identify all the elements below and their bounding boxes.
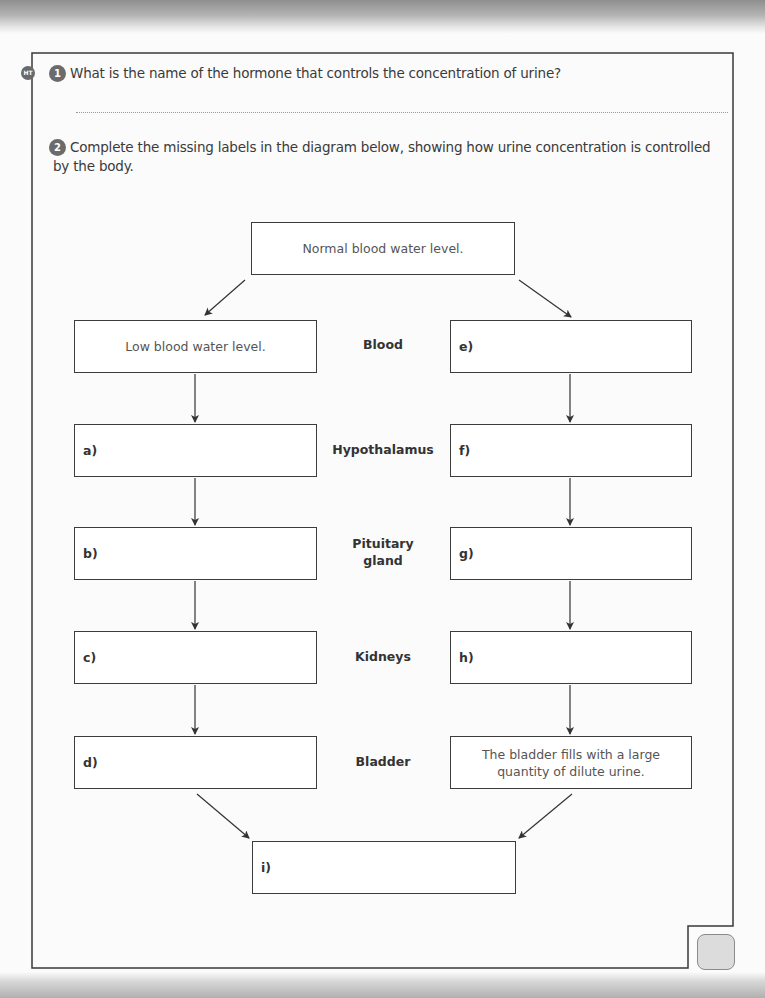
answer-label-g: g) [451, 546, 474, 561]
question-1-number: 1 [49, 65, 66, 82]
page-footer-band [0, 972, 765, 998]
answer-label-i: i) [253, 860, 271, 875]
answer-box-b[interactable]: b) [74, 527, 317, 580]
answer-box-i[interactable]: i) [252, 841, 516, 894]
score-box[interactable] [697, 934, 735, 970]
answer-box-f[interactable]: f) [450, 424, 692, 477]
answer-label-e: e) [451, 339, 473, 354]
answer-box-h[interactable]: h) [450, 631, 692, 684]
organ-label-gland: gland [323, 552, 443, 569]
question-1-text: What is the name of the hormone that con… [70, 64, 561, 82]
organ-label-blood: Blood [323, 336, 443, 353]
question-2-number: 2 [49, 139, 66, 156]
answer-label-f: f) [451, 443, 470, 458]
low-blood-water-box: Low blood water level. [74, 320, 317, 373]
normal-blood-water-box: Normal blood water level. [251, 222, 515, 275]
higher-tier-badge: HT [21, 66, 35, 80]
question-2-text-line1: Complete the missing labels in the diagr… [70, 138, 710, 156]
question-1-answer-line[interactable] [76, 112, 728, 113]
organ-label-pituitary: Pituitary [323, 535, 443, 552]
normal-blood-water-text: Normal blood water level. [252, 240, 514, 257]
dilute-urine-box: The bladder fills with a large quantity … [450, 736, 692, 789]
question-2-text-line2: by the body. [53, 157, 134, 175]
answer-box-d[interactable]: d) [74, 736, 317, 789]
answer-label-d: d) [75, 755, 98, 770]
dilute-urine-text-line1: The bladder fills with a large [451, 746, 691, 763]
answer-box-c[interactable]: c) [74, 631, 317, 684]
answer-box-a[interactable]: a) [74, 424, 317, 477]
organ-label-kidneys: Kidneys [323, 648, 443, 665]
organ-label-bladder: Bladder [323, 753, 443, 770]
low-blood-water-text: Low blood water level. [75, 338, 316, 355]
dilute-urine-text-line2: quantity of dilute urine. [451, 763, 691, 780]
answer-label-c: c) [75, 650, 96, 665]
answer-label-h: h) [451, 650, 474, 665]
answer-label-b: b) [75, 546, 98, 561]
answer-box-g[interactable]: g) [450, 527, 692, 580]
organ-label-hypothalamus: Hypothalamus [323, 441, 443, 458]
answer-box-e[interactable]: e) [450, 320, 692, 373]
answer-label-a: a) [75, 443, 97, 458]
